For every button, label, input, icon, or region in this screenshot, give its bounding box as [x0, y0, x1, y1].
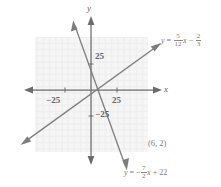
equation-label-steep-line: y = − 7 2 x + 22: [124, 165, 167, 181]
eq2-slope-fraction: 7 2: [141, 165, 147, 181]
eq2-slope-numerator: 7: [141, 165, 147, 172]
eq2-constant: 22: [159, 168, 167, 177]
equation-label-shallow-line: y = 5 12 x − 2 3: [161, 33, 202, 49]
tick-label-y-negative: −25: [95, 110, 109, 119]
y-axis-label: y: [87, 4, 91, 13]
eq1-constant-denominator: 3: [196, 40, 202, 48]
eq1-slope-numerator: 5: [174, 33, 183, 40]
x-axis-label: x: [164, 85, 168, 94]
intersection-point-label: (6, 2): [148, 139, 166, 148]
eq2-slope-denominator: 2: [141, 172, 147, 180]
eq1-constant-numerator: 2: [196, 33, 202, 40]
coordinate-plane-figure: y x 25 −25 −25 25 (6, 2) y = 5 12 x − 2 …: [0, 0, 221, 187]
eq2-leading-sign: −: [136, 168, 141, 177]
eq1-constant-fraction: 2 3: [196, 33, 202, 49]
tick-label-x-negative: −25: [46, 96, 60, 105]
graph-canvas: [0, 0, 221, 187]
eq1-slope-fraction: 5 12: [174, 33, 183, 49]
tick-label-y-positive: 25: [95, 52, 104, 61]
eq1-slope-denominator: 12: [174, 40, 183, 48]
tick-label-x-positive: 25: [112, 96, 121, 105]
